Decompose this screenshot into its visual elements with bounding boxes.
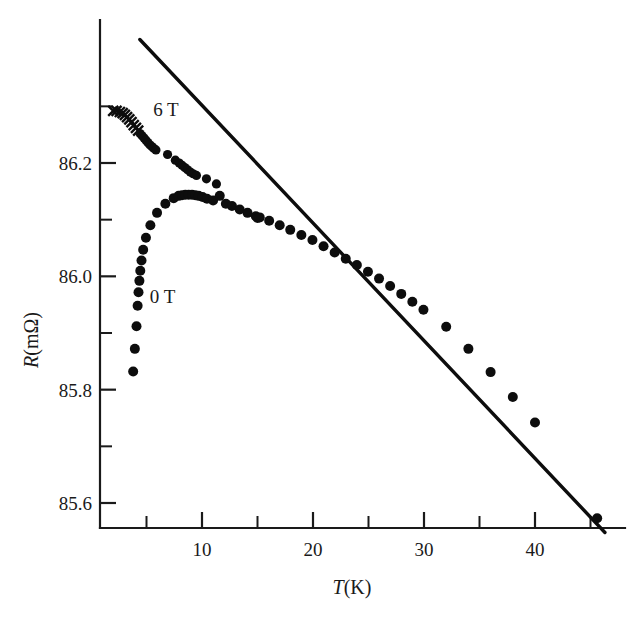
y-axis: 86.286.085.885.6 R(mΩ) bbox=[20, 20, 116, 528]
x-axis-tick-labels: 10203040 bbox=[193, 539, 545, 560]
series-label-6t: 6 T bbox=[153, 99, 179, 120]
data-point-0T bbox=[307, 235, 317, 245]
data-point-0T bbox=[330, 248, 340, 258]
resistance-vs-temperature-chart: 86.286.085.885.6 R(mΩ) 10203040 T(K) 6 T… bbox=[0, 0, 638, 617]
data-point-0T bbox=[132, 321, 142, 331]
fit-line-path bbox=[140, 39, 605, 532]
data-point-0T bbox=[264, 216, 274, 226]
data-point-0T bbox=[486, 367, 496, 377]
data-point-0T bbox=[137, 255, 147, 265]
series-label-0t: 0 T bbox=[150, 286, 176, 307]
data-point-0T bbox=[134, 287, 144, 297]
data-point-0T bbox=[407, 297, 417, 307]
data-point-0T bbox=[396, 289, 406, 299]
data-point-0T bbox=[215, 191, 225, 201]
data-point-0T bbox=[130, 344, 140, 354]
data-point-0T bbox=[296, 230, 306, 240]
linear-fit-line bbox=[140, 39, 605, 532]
data-point-0T bbox=[385, 281, 395, 291]
x-tick-label: 10 bbox=[193, 539, 212, 560]
y-tick-label: 85.8 bbox=[59, 380, 92, 401]
data-point-6T bbox=[212, 179, 221, 188]
data-point-0T bbox=[508, 392, 518, 402]
x-axis: 10203040 T(K) bbox=[100, 512, 625, 599]
data-point-0T bbox=[133, 301, 143, 311]
y-axis-tick-labels: 86.286.085.885.6 bbox=[59, 153, 92, 514]
data-point-0T bbox=[285, 225, 295, 235]
x-axis-minor-ticks bbox=[147, 516, 591, 528]
data-point-6T bbox=[151, 145, 160, 154]
data-point-0T bbox=[128, 367, 138, 377]
x-tick-label: 30 bbox=[415, 539, 434, 560]
data-point-0T bbox=[463, 344, 473, 354]
data-point-0T bbox=[363, 267, 373, 277]
data-point-6T bbox=[192, 171, 201, 180]
data-point-0T bbox=[530, 418, 540, 428]
data-point-0T bbox=[319, 241, 329, 251]
data-point-0T bbox=[160, 199, 170, 209]
x-tick-label: 20 bbox=[304, 539, 323, 560]
data-point-0T bbox=[138, 245, 148, 255]
y-axis-title: R(mΩ) bbox=[20, 312, 43, 369]
data-point-6T bbox=[202, 174, 211, 183]
data-point-0T bbox=[135, 266, 145, 276]
data-point-0T bbox=[418, 305, 428, 315]
y-tick-label: 85.6 bbox=[59, 493, 92, 514]
data-point-0T bbox=[374, 274, 384, 284]
x-axis-title: T(K) bbox=[333, 576, 372, 599]
data-point-0T bbox=[341, 254, 351, 264]
data-point-6T bbox=[163, 150, 172, 159]
data-point-0T bbox=[255, 212, 265, 222]
data-point-0T bbox=[592, 513, 602, 523]
data-point-0T bbox=[152, 208, 162, 218]
y-tick-label: 86.2 bbox=[59, 153, 92, 174]
series-0T-points bbox=[128, 190, 602, 524]
data-point-0T bbox=[145, 220, 155, 230]
data-point-0T bbox=[275, 220, 285, 230]
data-point-0T bbox=[141, 233, 151, 243]
y-tick-label: 86.0 bbox=[59, 266, 92, 287]
chart-figure: 86.286.085.885.6 R(mΩ) 10203040 T(K) 6 T… bbox=[0, 0, 638, 617]
data-point-0T bbox=[134, 276, 144, 286]
x-tick-label: 40 bbox=[526, 539, 545, 560]
data-point-0T bbox=[352, 260, 362, 270]
data-point-0T bbox=[441, 322, 451, 332]
